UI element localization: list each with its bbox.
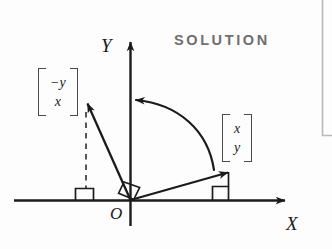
matrix-bracket-right bbox=[244, 114, 252, 162]
matrix-entry-row-1: x bbox=[234, 121, 240, 136]
margin-corner-rule bbox=[323, 0, 332, 136]
x-axis-label: X bbox=[286, 214, 298, 233]
matrix-entry-row-1: −y bbox=[50, 75, 66, 90]
matrix-entries: x y bbox=[230, 117, 244, 158]
figure-canvas bbox=[0, 0, 332, 249]
origin-label: O bbox=[110, 205, 122, 222]
solution-heading: SOLUTION bbox=[174, 33, 270, 48]
matrix-entries: −y x bbox=[46, 71, 70, 112]
right-angle-x-foot-left bbox=[76, 189, 94, 201]
matrix-entry-row-2: y bbox=[234, 140, 240, 155]
matrix-bracket-left bbox=[222, 114, 230, 162]
matrix-bracket-left bbox=[38, 68, 46, 116]
y-axis-label: Y bbox=[101, 36, 112, 55]
rotated-vector-label: −y x bbox=[38, 68, 78, 116]
matrix-entry-row-2: x bbox=[55, 94, 61, 109]
rotated-vector bbox=[88, 104, 131, 201]
rotation-figure: Y X O SOLUTION −y x x y bbox=[0, 0, 332, 249]
rotation-arc bbox=[136, 100, 214, 170]
original-vector-label: x y bbox=[222, 114, 252, 162]
matrix-bracket-right bbox=[70, 68, 78, 116]
